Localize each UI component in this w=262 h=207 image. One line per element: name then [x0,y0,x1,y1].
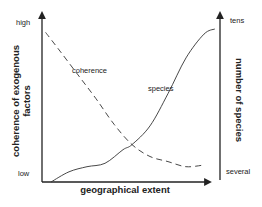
coherence-annotation: coherence [72,66,107,75]
species-curve [51,29,215,182]
left-axis-bottom-label: low [18,169,30,178]
left-axis-title-line1: coherence of exogenous [10,45,21,157]
coherence-curve [46,32,204,166]
right-axis-top-label: tens [230,16,244,25]
right-axis-title: number of species [234,58,245,142]
right-axis-bottom-label: several [226,167,251,176]
chart: high low tens several coherence of exoge… [0,0,262,207]
species-annotation: species [148,84,174,93]
left-axis-top-label: high [16,18,30,27]
x-axis-title: geographical extent [80,184,171,195]
left-axis-title-line2: factors [21,85,32,117]
